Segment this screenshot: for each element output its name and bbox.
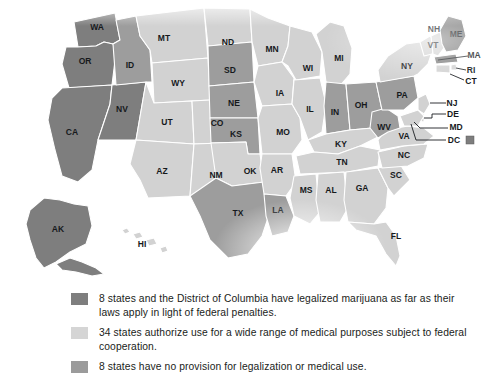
state-label-SD: SD [224, 65, 236, 75]
state-label-VT: VT [428, 40, 440, 50]
state-TX[interactable] [190, 178, 272, 258]
state-label-MD: MD [449, 122, 462, 132]
state-label-VA: VA [398, 131, 409, 141]
state-label-CA: CA [66, 127, 78, 137]
dc-marker-square [466, 136, 474, 144]
state-label-WV: WV [377, 122, 391, 132]
leader-line-DE [424, 114, 446, 118]
state-AL[interactable] [316, 172, 348, 222]
legend-item-medical: 34 states authorize use for a wide range… [71, 326, 475, 353]
state-SD[interactable] [208, 42, 254, 86]
state-label-IN: IN [331, 107, 340, 117]
state-label-AK: AK [52, 224, 65, 234]
state-label-AZ: AZ [156, 166, 167, 176]
state-MD[interactable] [400, 110, 424, 126]
state-MS[interactable] [290, 174, 320, 224]
state-label-ID: ID [126, 60, 135, 70]
state-label-IL: IL [306, 104, 314, 114]
state-label-IA: IA [276, 88, 285, 98]
state-label-MO: MO [276, 127, 290, 137]
legend-swatch-medical [71, 327, 88, 339]
state-label-KS: KS [230, 129, 242, 139]
state-label-MS: MS [300, 185, 313, 195]
legend-swatch-no-provision [71, 361, 88, 373]
legend-item-no-provision: 8 states have no provision for legalizat… [71, 360, 475, 374]
state-label-TN: TN [336, 157, 347, 167]
state-label-WA: WA [90, 22, 104, 32]
state-label-KY: KY [335, 139, 347, 149]
legend-label-no-provision: 8 states have no provision for legalizat… [99, 360, 367, 374]
state-label-NY: NY [401, 61, 413, 71]
state-AK[interactable] [26, 198, 104, 276]
state-label-AL: AL [325, 185, 336, 195]
state-label-NC: NC [398, 150, 410, 160]
legend-item-legalized: 8 states and the District of Columbia ha… [71, 292, 475, 319]
map-page: WA OR CA NV ID MT WY UT CO AZ NM ND SD N… [0, 0, 483, 388]
us-map-container: WA OR CA NV ID MT WY UT CO AZ NM ND SD N… [0, 0, 483, 286]
state-label-LA: LA [272, 205, 283, 215]
legend-swatch-legalized [71, 293, 88, 305]
state-label-MA: MA [467, 50, 480, 60]
state-label-OK: OK [244, 166, 258, 176]
state-RI[interactable] [451, 64, 457, 70]
state-label-WY: WY [171, 78, 185, 88]
state-label-CO: CO [211, 118, 224, 128]
state-label-ND: ND [222, 37, 234, 47]
state-label-DC: DC [448, 135, 460, 145]
state-label-DE: DE [447, 109, 459, 119]
state-label-NE: NE [228, 98, 240, 108]
state-label-NJ: NJ [447, 98, 458, 108]
state-GA[interactable] [344, 168, 388, 224]
state-label-ME: ME [450, 29, 463, 39]
legend-label-legalized: 8 states and the District of Columbia ha… [99, 292, 471, 319]
state-label-OR: OR [79, 56, 92, 66]
state-CT[interactable] [436, 65, 450, 73]
state-label-WI: WI [303, 63, 313, 73]
state-label-HI: HI [138, 239, 147, 249]
state-label-GA: GA [356, 183, 369, 193]
state-label-FL: FL [391, 231, 401, 241]
state-label-NH: NH [428, 24, 440, 34]
state-label-NM: NM [209, 170, 222, 180]
state-label-UT: UT [161, 117, 173, 127]
state-label-OH: OH [355, 100, 368, 110]
state-label-SC: SC [390, 170, 402, 180]
state-label-TX: TX [233, 208, 244, 218]
state-NJ[interactable] [418, 94, 430, 114]
state-label-MI: MI [334, 53, 343, 63]
state-FL[interactable] [348, 222, 400, 266]
us-map-svg[interactable]: WA OR CA NV ID MT WY UT CO AZ NM ND SD N… [0, 0, 483, 286]
state-label-PA: PA [396, 90, 407, 100]
state-label-NV: NV [116, 104, 128, 114]
state-label-MN: MN [265, 44, 278, 54]
state-IA[interactable] [254, 62, 294, 106]
legend-label-medical: 34 states authorize use for a wide range… [99, 326, 471, 353]
state-label-MT: MT [158, 33, 171, 43]
leader-line-CT [450, 74, 464, 80]
state-label-AR: AR [271, 165, 283, 175]
state-label-RI: RI [467, 65, 476, 75]
map-legend: 8 states and the District of Columbia ha… [0, 286, 483, 388]
state-label-CT: CT [465, 76, 477, 86]
